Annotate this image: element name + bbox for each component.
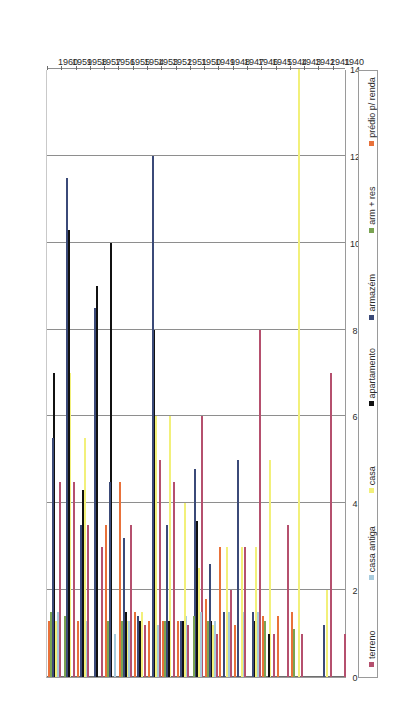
bar [291, 612, 293, 677]
bar [152, 156, 154, 677]
legend-swatch-icon [369, 662, 374, 667]
category-row [318, 70, 332, 677]
category-row [161, 70, 175, 677]
plot-area [46, 70, 346, 678]
bar [209, 564, 211, 677]
bar [301, 634, 303, 677]
bar [48, 621, 50, 677]
legend-swatch-icon [369, 315, 374, 320]
category-row [233, 70, 247, 677]
bar [201, 416, 203, 677]
bar [230, 590, 232, 677]
bar [273, 634, 275, 677]
legend-item-apartamento[interactable]: apartamento [362, 348, 376, 407]
bar [164, 621, 166, 677]
legend-item-armaz-m[interactable]: armazém [362, 274, 376, 320]
bar [82, 490, 84, 677]
bar [169, 416, 171, 677]
bar [205, 599, 207, 677]
bar [52, 438, 54, 677]
legend-item-terreno[interactable]: terreno [362, 630, 376, 667]
bar [234, 625, 236, 677]
category-row [176, 70, 190, 677]
category-row [76, 70, 90, 677]
legend-item-casa[interactable]: casa [362, 466, 376, 493]
bar [187, 625, 189, 677]
rotated-figure-wrapper: 02468101214 1940194119421943194419451946… [28, 20, 380, 708]
legend-item-arm---res[interactable]: arm + res [362, 186, 376, 232]
bar [198, 568, 200, 677]
legend-label: prédio p/ renda [367, 77, 377, 138]
bar [73, 482, 75, 677]
bar [166, 525, 168, 677]
category-label-1960: 1960 [58, 57, 78, 67]
bar [69, 373, 71, 677]
bar [242, 612, 244, 677]
bar [144, 625, 146, 677]
bar [101, 547, 103, 677]
category-row [61, 70, 75, 677]
bar [162, 621, 164, 677]
bar [77, 621, 79, 677]
bar [253, 621, 255, 677]
bar [212, 625, 214, 677]
legend-label: casa [367, 466, 377, 485]
bar [94, 308, 96, 677]
bar [293, 629, 295, 677]
bar [66, 178, 68, 677]
bar [96, 286, 98, 677]
bar [153, 330, 155, 677]
legend-swatch-icon [369, 401, 374, 406]
bar [87, 525, 89, 677]
category-row [247, 70, 261, 677]
bar [114, 634, 116, 677]
legend-label: casa antiga [367, 526, 377, 572]
bar [255, 547, 257, 677]
bar [330, 373, 332, 677]
bar [244, 547, 246, 677]
bar [214, 621, 216, 677]
gridline-14 [47, 68, 345, 69]
bar [257, 612, 259, 677]
category-row [290, 70, 304, 677]
bar [196, 521, 198, 677]
bar [128, 621, 130, 677]
bar [177, 621, 179, 677]
bar [237, 460, 239, 677]
bar [64, 616, 66, 677]
bar [141, 612, 143, 677]
bar [134, 612, 136, 677]
category-row [90, 70, 104, 677]
legend-label: apartamento [367, 348, 377, 399]
legend-item-casa-antiga[interactable]: casa antiga [362, 526, 376, 580]
category-row [261, 70, 275, 677]
bar [125, 612, 127, 677]
legend-item-pr-dio-p--renda[interactable]: prédio p/ renda [362, 77, 376, 146]
legend: terrenocasa antigacasaapartamentoarmazém… [358, 70, 378, 678]
bar [107, 621, 109, 677]
bar [105, 525, 107, 677]
legend-label: arm + res [367, 186, 377, 224]
bar [148, 621, 150, 677]
bar [110, 243, 112, 677]
legend-swatch-icon [369, 575, 374, 580]
legend-swatch-icon [369, 141, 374, 146]
bar [226, 547, 228, 677]
bar [210, 621, 212, 677]
bar [80, 525, 82, 677]
bar [207, 621, 209, 677]
bar [139, 621, 141, 677]
category-row [190, 70, 204, 677]
bar [109, 482, 111, 677]
bar [130, 525, 132, 677]
bar [155, 416, 157, 677]
bar [185, 616, 187, 677]
bar [344, 634, 346, 677]
category-row [304, 70, 318, 677]
category-row [118, 70, 132, 677]
bar [228, 612, 230, 677]
bar [173, 482, 175, 677]
bar [84, 438, 86, 677]
chart-page: 02468101214 1940194119421943194419451946… [0, 0, 408, 728]
bar [194, 469, 196, 677]
